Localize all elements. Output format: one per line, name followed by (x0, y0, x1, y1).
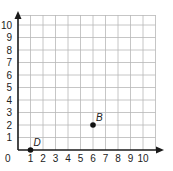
x-tick-labels: 12345678910 (28, 153, 149, 164)
x-tick-label: 9 (128, 153, 134, 164)
y-tick-label: 7 (6, 57, 12, 68)
x-tick-label: 3 (53, 153, 59, 164)
x-tick-label: 6 (90, 153, 96, 164)
data-points: DB (28, 112, 103, 153)
y-tick-label: 4 (6, 95, 12, 106)
y-tick-label: 1 (6, 132, 12, 143)
y-tick-label: 9 (6, 32, 12, 43)
y-tick-label: 6 (6, 70, 12, 81)
y-tick-label: 3 (6, 107, 12, 118)
y-tick-label: 8 (6, 45, 12, 56)
x-tick-label: 7 (103, 153, 109, 164)
x-tick-label: 4 (65, 153, 71, 164)
point-d (28, 147, 34, 153)
x-tick-label: 1 (28, 153, 34, 164)
axes (15, 11, 165, 154)
coordinate-plane: 12345678910 12345678910 0 DB (0, 0, 173, 171)
y-tick-label: 5 (6, 82, 12, 93)
y-axis-arrow-icon (15, 11, 22, 19)
point-label-d: D (34, 137, 41, 148)
grid-lines (18, 15, 156, 150)
point-label-b: B (96, 112, 103, 123)
x-axis-arrow-icon (156, 147, 164, 154)
x-tick-label: 10 (137, 153, 149, 164)
x-tick-label: 2 (40, 153, 46, 164)
point-b (90, 122, 96, 128)
y-tick-label: 10 (1, 20, 13, 31)
y-tick-label: 2 (6, 120, 12, 131)
x-tick-label: 8 (115, 153, 121, 164)
x-tick-label: 5 (78, 153, 84, 164)
origin-label: 0 (5, 153, 11, 164)
y-tick-labels: 12345678910 (1, 20, 13, 144)
